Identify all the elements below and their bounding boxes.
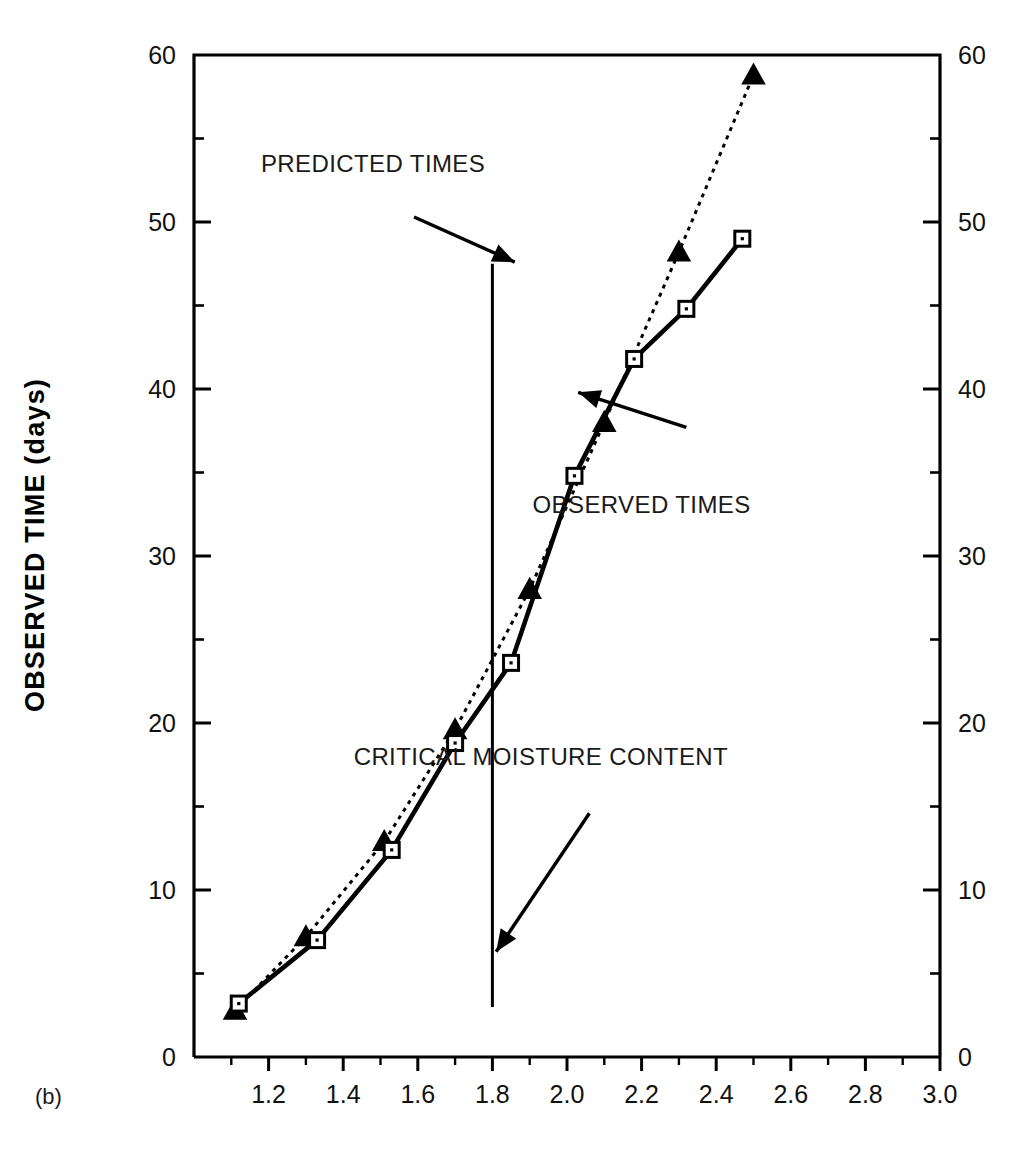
marker-open-square-center <box>573 474 576 477</box>
y-tick-label-left: 20 <box>148 709 176 737</box>
series-predicted-times <box>224 64 764 1019</box>
plot-frame <box>194 55 940 1057</box>
marker-open-square-center <box>741 237 744 240</box>
x-tick-label: 2.4 <box>699 1080 734 1108</box>
annotation-label: PREDICTED TIMES <box>261 150 485 177</box>
y-axis-title: OBSERVED TIME (days) <box>20 378 50 712</box>
marker-open-square-center <box>509 661 512 664</box>
y-tick-label-right: 60 <box>958 41 986 69</box>
y-tick-label-right: 50 <box>958 208 986 236</box>
x-tick-label: 1.6 <box>400 1080 435 1108</box>
annotation-label: CRITICAL MOISTURE CONTENT <box>354 743 728 770</box>
x-tick-label: 1.4 <box>326 1080 361 1108</box>
panel-label: (b) <box>35 1084 62 1109</box>
annotation-arrow-shaft <box>496 813 589 952</box>
marker-open-square-center <box>390 848 393 851</box>
y-tick-label-left: 60 <box>148 41 176 69</box>
y-axis-right-tick-labels: 0102030405060 <box>958 41 986 1071</box>
annotation-arrow-head <box>496 928 516 952</box>
y-tick-label-left: 40 <box>148 375 176 403</box>
series-line <box>239 239 743 1004</box>
x-axis-ticks <box>231 1057 940 1071</box>
y-axis-left-tick-labels: 0102030405060 <box>148 41 176 1071</box>
marker-filled-triangle <box>743 64 765 84</box>
y-tick-label-right: 20 <box>958 709 986 737</box>
series-line <box>235 75 753 1010</box>
figure-root: 1.21.41.61.82.02.22.42.62.83.0 010203040… <box>0 0 1015 1166</box>
series-observed-times <box>231 231 750 1011</box>
marker-open-square-center <box>685 307 688 310</box>
x-tick-label: 2.2 <box>624 1080 659 1108</box>
marker-filled-triangle <box>668 241 690 261</box>
chart-annotations: PREDICTED TIMESOBSERVED TIMESCRITICAL MO… <box>261 150 751 952</box>
y-tick-label-left: 50 <box>148 208 176 236</box>
y-tick-label-right: 30 <box>958 542 986 570</box>
x-tick-label: 1.8 <box>475 1080 510 1108</box>
x-tick-label: 2.0 <box>550 1080 585 1108</box>
x-axis-tick-labels: 1.21.41.61.82.02.22.42.62.83.0 <box>251 1080 957 1108</box>
x-tick-label: 2.8 <box>848 1080 883 1108</box>
y-tick-label-left: 0 <box>162 1043 176 1071</box>
y-tick-label-right: 0 <box>958 1043 972 1071</box>
plot-spines <box>194 55 940 1057</box>
annotation-arrow-head <box>578 390 602 408</box>
marker-open-square-center <box>315 939 318 942</box>
x-tick-label: 3.0 <box>923 1080 958 1108</box>
annotation-label: OBSERVED TIMES <box>533 491 751 518</box>
y-tick-label-left: 10 <box>148 876 176 904</box>
marker-open-square-center <box>633 357 636 360</box>
marker-open-square-center <box>237 1002 240 1005</box>
x-tick-label: 1.2 <box>251 1080 286 1108</box>
x-tick-label: 2.6 <box>773 1080 808 1108</box>
y-tick-label-left: 30 <box>148 542 176 570</box>
chart-canvas: 1.21.41.61.82.02.22.42.62.83.0 010203040… <box>0 0 1015 1166</box>
y-tick-label-right: 10 <box>958 876 986 904</box>
y-tick-label-right: 40 <box>958 375 986 403</box>
